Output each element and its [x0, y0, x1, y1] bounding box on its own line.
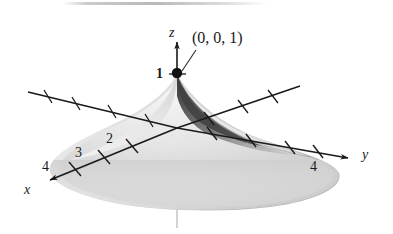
x-tick-label-3: 3 [75, 146, 82, 160]
x-tick-label-2: 2 [106, 132, 113, 146]
annotation-leader-line [182, 50, 196, 71]
surface-plot-figure: z x y 1 4 3 2 4 (0, 0, 1) [0, 0, 393, 234]
point-annotation-label: (0, 0, 1) [192, 30, 243, 46]
y-axis-label: y [362, 148, 368, 162]
surface-body [40, 74, 355, 222]
x-tick-label-4: 4 [42, 160, 49, 174]
y-tick-label-4: 4 [310, 160, 317, 174]
z-axis-label: z [169, 26, 174, 40]
z-height-label-1: 1 [156, 67, 163, 81]
marked-point [172, 68, 182, 78]
surface-front-fade [40, 160, 355, 220]
x-axis-label: x [24, 183, 30, 197]
